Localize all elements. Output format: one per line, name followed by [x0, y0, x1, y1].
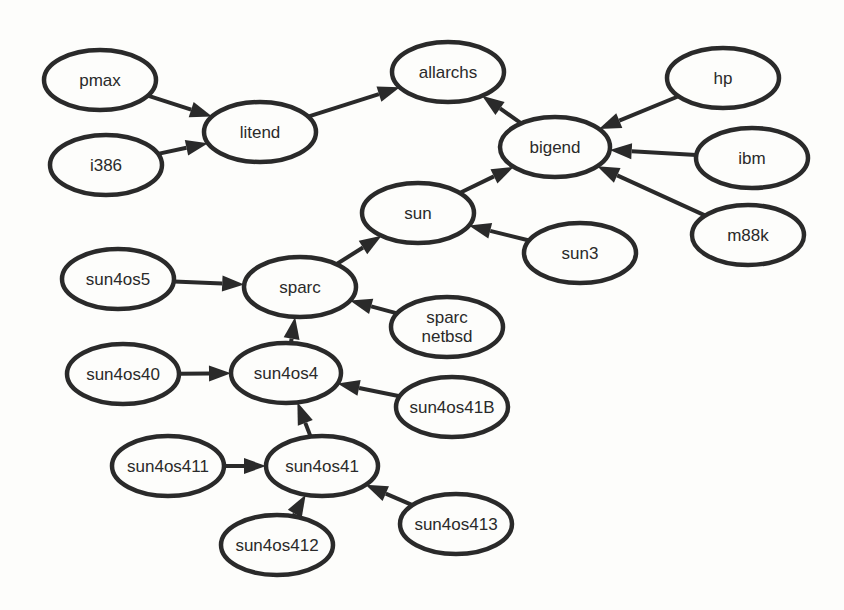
node-label: sun4os41 — [285, 457, 359, 476]
edge-sun4os413-to-sun4os41 — [366, 485, 413, 505]
edge-sun4os4-to-sparc — [284, 317, 300, 343]
edge-i386-to-litend — [158, 140, 208, 156]
node-sun4os40: sun4os40 — [67, 344, 179, 404]
edge-pmax-to-litend — [148, 96, 212, 118]
node-sun4os41B: sun4os41B — [396, 377, 508, 437]
edge-sun4os411-to-sun4os41 — [224, 458, 266, 474]
arrowhead-icon — [189, 102, 212, 117]
arrowhead-icon — [222, 276, 244, 292]
edge-line — [632, 151, 697, 155]
node-label: sun3 — [562, 244, 599, 263]
edge-line — [490, 231, 529, 241]
node-label: hp — [714, 69, 733, 88]
arrowhead-icon — [284, 317, 300, 340]
edge-sun4os5-to-sparc — [174, 276, 244, 292]
node-label: sun — [404, 204, 431, 223]
node-label: sun4os40 — [86, 365, 160, 384]
node-label: sun4os41B — [409, 398, 494, 417]
edge-line — [460, 176, 494, 193]
node-sun4os41: sun4os41 — [266, 436, 378, 496]
edge-litend-to-allarchs — [308, 86, 400, 116]
node-label: i386 — [90, 156, 122, 175]
node-label: sun4os413 — [414, 515, 497, 534]
arrowhead-icon — [366, 485, 389, 501]
edge-m88k-to-bigend — [597, 166, 705, 215]
node-hp: hp — [667, 48, 779, 108]
arrowhead-icon — [610, 143, 632, 159]
node-label: litend — [240, 123, 281, 142]
architecture-graph: pmaxi386litendallarchsbigendhpibmm88ksun… — [0, 0, 844, 610]
node-label: sun4os4 — [254, 364, 318, 383]
node-label: sparc — [426, 308, 468, 327]
node-sun4os4: sun4os4 — [231, 343, 341, 403]
node-label: netbsd — [421, 327, 472, 346]
node-sun4os411: sun4os411 — [112, 436, 224, 496]
arrowhead-icon — [376, 86, 399, 101]
node-label: sun4os5 — [86, 270, 150, 289]
arrowhead-icon — [209, 365, 231, 381]
node-allarchs: allarchs — [392, 42, 504, 102]
arrowhead-icon — [482, 96, 505, 115]
edge-sparc-to-sun — [336, 236, 381, 264]
node-sun4os5: sun4os5 — [62, 249, 174, 309]
nodes-layer: pmaxi386litendallarchsbigendhpibmm88ksun… — [44, 42, 808, 575]
node-sparc_netbsd: sparcnetbsd — [391, 297, 503, 357]
arrowhead-icon — [490, 167, 513, 184]
edge-ibm-to-bigend — [610, 143, 697, 159]
node-bigend: bigend — [500, 117, 610, 177]
arrowhead-icon — [350, 299, 373, 314]
arrowhead-icon — [597, 166, 620, 182]
edge-line — [359, 388, 400, 396]
node-label: sun4os412 — [235, 536, 318, 555]
node-label: allarchs — [419, 63, 478, 82]
arrowhead-icon — [244, 458, 266, 474]
edge-line — [386, 494, 413, 506]
node-label: sparc — [279, 278, 321, 297]
edge-line — [148, 96, 191, 110]
node-label: m88k — [727, 226, 769, 245]
edge-sun4os41-to-sun4os4 — [297, 402, 312, 436]
node-m88k: m88k — [692, 205, 804, 265]
edge-hp-to-bigend — [599, 96, 679, 129]
node-i386: i386 — [50, 135, 162, 195]
arrowhead-icon — [185, 140, 208, 156]
edge-line — [500, 108, 521, 123]
node-label: ibm — [738, 149, 765, 168]
arrowhead-icon — [297, 402, 312, 425]
arrowhead-icon — [359, 236, 382, 254]
node-sun4os413: sun4os413 — [400, 494, 512, 554]
edge-sun4os41B-to-sun4os4 — [337, 380, 399, 396]
edge-line — [158, 148, 186, 154]
edge-sun4os40-to-sun4os4 — [179, 365, 231, 381]
node-sparc: sparc — [244, 257, 356, 317]
edge-sparc_netbsd-to-sparc — [350, 299, 397, 314]
arrowhead-icon — [337, 380, 360, 396]
node-litend: litend — [204, 102, 316, 162]
edge-sun-to-bigend — [460, 167, 514, 193]
edge-line — [308, 94, 379, 117]
edge-line — [336, 247, 363, 264]
node-label: sun4os411 — [127, 457, 209, 476]
node-label: pmax — [79, 71, 121, 90]
arrowhead-icon — [599, 113, 622, 129]
node-sun3: sun3 — [524, 223, 636, 283]
edge-line — [619, 96, 678, 120]
node-sun4os412: sun4os412 — [221, 515, 333, 575]
edge-line — [174, 281, 222, 283]
node-pmax: pmax — [44, 50, 156, 110]
node-sun: sun — [362, 183, 474, 243]
arrowhead-icon — [469, 223, 492, 239]
edge-line — [617, 175, 705, 215]
edge-line — [371, 306, 397, 313]
node-ibm: ibm — [696, 128, 808, 188]
edge-sun3-to-sun — [469, 223, 529, 240]
node-label: bigend — [529, 138, 580, 157]
edge-bigend-to-allarchs — [482, 96, 521, 123]
